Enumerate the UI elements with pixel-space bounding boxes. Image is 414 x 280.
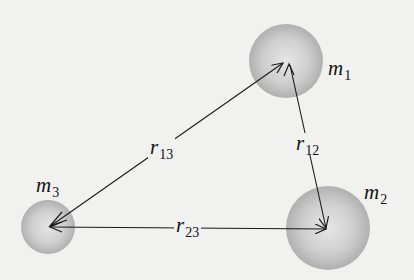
r12-symbol: r bbox=[296, 131, 304, 155]
m1-symbol: m bbox=[328, 56, 343, 80]
r12-subscript: 12 bbox=[305, 143, 319, 158]
diagram-graphics bbox=[0, 0, 414, 280]
m3-subscript: 3 bbox=[52, 185, 59, 200]
label-m3: m3 bbox=[36, 175, 59, 196]
m2-subscript: 2 bbox=[380, 192, 387, 207]
r13-symbol: r bbox=[150, 135, 158, 159]
r13-subscript: 13 bbox=[159, 147, 173, 162]
r23-subscript: 23 bbox=[185, 225, 199, 240]
mass-m1-sphere bbox=[249, 24, 323, 98]
mass-m2-sphere bbox=[286, 186, 370, 270]
label-m2: m2 bbox=[364, 182, 387, 203]
label-r12: r12 bbox=[294, 133, 321, 154]
label-r23: r23 bbox=[174, 215, 201, 236]
r23-symbol: r bbox=[176, 213, 184, 237]
m2-symbol: m bbox=[364, 180, 379, 204]
three-body-diagram: m1 m2 m3 r13 r12 r23 bbox=[0, 0, 414, 280]
label-r13: r13 bbox=[148, 137, 175, 158]
label-m1: m1 bbox=[328, 58, 351, 79]
m3-symbol: m bbox=[36, 173, 51, 197]
m1-subscript: 1 bbox=[344, 68, 351, 83]
